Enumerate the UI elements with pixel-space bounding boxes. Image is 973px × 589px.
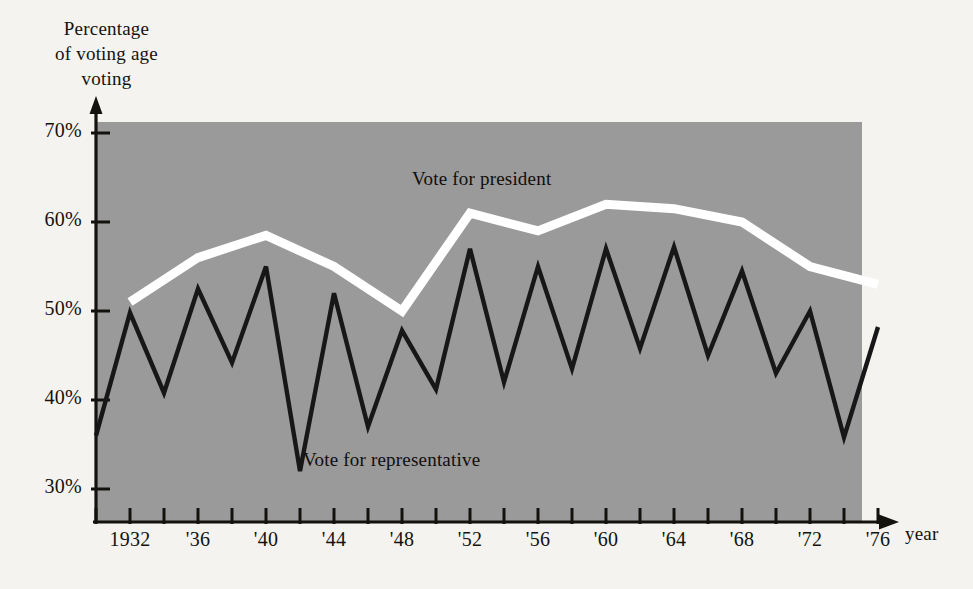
x-tick-label: '76 <box>838 528 918 551</box>
x-axis-tick-labels: 1932'36'40'44'48'52'56'60'64'68'72'76 <box>0 0 973 589</box>
series-annotation-representative: Vote for representative <box>303 449 480 471</box>
series-annotation-president: Vote for president <box>412 168 551 190</box>
chart-figure: Percentage of voting age voting year 70%… <box>0 0 973 589</box>
